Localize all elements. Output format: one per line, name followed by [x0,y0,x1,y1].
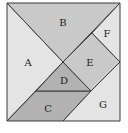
piece-label-e: E [86,57,93,68]
tangram-diagram: ABCDEFG [0,0,128,133]
piece-label-g: G [99,99,107,110]
piece-label-f: F [104,28,111,39]
piece-label-c: C [44,103,52,114]
piece-label-b: B [59,17,66,28]
piece-label-a: A [23,57,32,68]
piece-label-d: D [60,75,68,86]
